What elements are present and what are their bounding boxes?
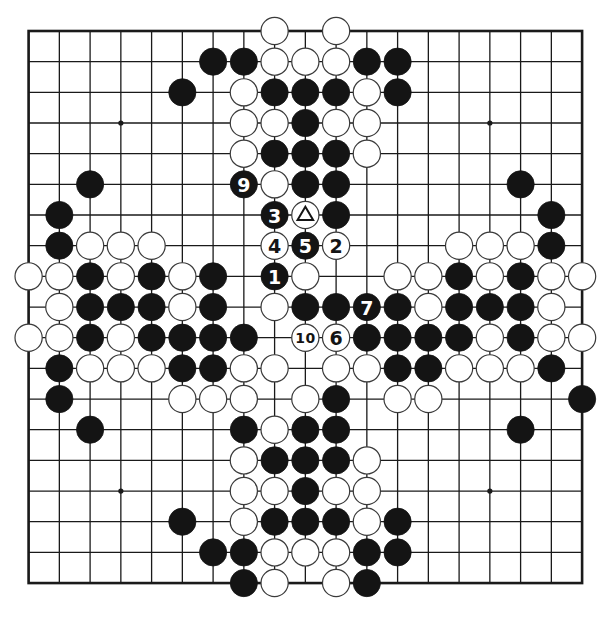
black-stone[interactable] bbox=[77, 416, 104, 443]
black-stone[interactable] bbox=[353, 324, 380, 351]
white-stone[interactable] bbox=[230, 508, 257, 535]
white-stone[interactable] bbox=[230, 79, 257, 106]
white-stone[interactable] bbox=[538, 263, 565, 290]
black-stone[interactable] bbox=[230, 324, 257, 351]
white-stone[interactable] bbox=[323, 539, 350, 566]
white-stone[interactable] bbox=[507, 355, 534, 382]
black-stone[interactable] bbox=[200, 263, 227, 290]
black-stone[interactable] bbox=[538, 201, 565, 228]
black-stone[interactable] bbox=[507, 416, 534, 443]
black-stone[interactable] bbox=[415, 355, 442, 382]
black-stone[interactable] bbox=[77, 263, 104, 290]
white-stone[interactable] bbox=[107, 355, 134, 382]
white-stone[interactable] bbox=[169, 293, 196, 320]
black-stone[interactable] bbox=[292, 79, 319, 106]
black-stone[interactable] bbox=[169, 508, 196, 535]
white-stone[interactable] bbox=[261, 355, 288, 382]
black-stone[interactable] bbox=[323, 171, 350, 198]
black-stone[interactable] bbox=[292, 447, 319, 474]
white-stone[interactable] bbox=[261, 17, 288, 44]
white-stone[interactable] bbox=[353, 477, 380, 504]
black-stone[interactable] bbox=[507, 324, 534, 351]
white-stone[interactable] bbox=[415, 385, 442, 412]
white-stone[interactable] bbox=[353, 508, 380, 535]
white-stone[interactable] bbox=[230, 140, 257, 167]
white-stone[interactable] bbox=[77, 232, 104, 259]
black-stone[interactable] bbox=[507, 293, 534, 320]
white-stone[interactable] bbox=[261, 539, 288, 566]
white-stone[interactable] bbox=[15, 324, 42, 351]
black-stone[interactable] bbox=[384, 508, 411, 535]
white-stone[interactable] bbox=[261, 477, 288, 504]
white-stone[interactable] bbox=[292, 263, 319, 290]
white-stone[interactable] bbox=[292, 385, 319, 412]
white-stone[interactable] bbox=[323, 17, 350, 44]
black-stone[interactable] bbox=[323, 447, 350, 474]
black-stone[interactable] bbox=[77, 293, 104, 320]
black-stone[interactable] bbox=[292, 140, 319, 167]
black-stone[interactable] bbox=[292, 293, 319, 320]
black-stone[interactable] bbox=[200, 293, 227, 320]
white-stone[interactable] bbox=[323, 355, 350, 382]
white-stone[interactable] bbox=[46, 293, 73, 320]
white-stone[interactable] bbox=[292, 48, 319, 75]
white-stone[interactable] bbox=[538, 324, 565, 351]
white-stone[interactable] bbox=[77, 355, 104, 382]
white-stone[interactable] bbox=[261, 569, 288, 596]
white-stone[interactable] bbox=[353, 140, 380, 167]
black-stone[interactable] bbox=[261, 79, 288, 106]
black-stone[interactable] bbox=[107, 293, 134, 320]
white-stone[interactable] bbox=[169, 385, 196, 412]
white-stone[interactable] bbox=[323, 477, 350, 504]
white-stone[interactable] bbox=[230, 477, 257, 504]
black-stone[interactable] bbox=[230, 48, 257, 75]
black-stone[interactable] bbox=[292, 508, 319, 535]
white-stone[interactable] bbox=[261, 48, 288, 75]
black-stone[interactable] bbox=[200, 48, 227, 75]
white-stone[interactable] bbox=[569, 263, 596, 290]
white-stone[interactable] bbox=[230, 109, 257, 136]
white-stone[interactable] bbox=[46, 263, 73, 290]
white-stone[interactable] bbox=[323, 48, 350, 75]
black-stone[interactable] bbox=[292, 416, 319, 443]
white-stone[interactable] bbox=[107, 263, 134, 290]
black-stone[interactable] bbox=[200, 355, 227, 382]
black-stone[interactable] bbox=[353, 569, 380, 596]
white-stone[interactable] bbox=[261, 171, 288, 198]
black-stone[interactable] bbox=[507, 171, 534, 198]
white-stone[interactable] bbox=[292, 539, 319, 566]
black-stone[interactable] bbox=[292, 171, 319, 198]
white-stone[interactable] bbox=[476, 263, 503, 290]
black-stone[interactable] bbox=[384, 539, 411, 566]
white-stone[interactable] bbox=[476, 355, 503, 382]
black-stone[interactable] bbox=[230, 416, 257, 443]
white-stone[interactable] bbox=[507, 232, 534, 259]
white-stone[interactable] bbox=[353, 447, 380, 474]
white-stone[interactable] bbox=[323, 569, 350, 596]
black-stone[interactable] bbox=[323, 508, 350, 535]
black-stone[interactable] bbox=[323, 416, 350, 443]
black-stone[interactable] bbox=[292, 109, 319, 136]
black-stone[interactable] bbox=[261, 447, 288, 474]
black-stone[interactable] bbox=[46, 385, 73, 412]
black-stone[interactable] bbox=[384, 48, 411, 75]
black-stone[interactable] bbox=[323, 79, 350, 106]
white-stone[interactable] bbox=[384, 263, 411, 290]
black-stone[interactable] bbox=[138, 293, 165, 320]
white-stone[interactable] bbox=[569, 324, 596, 351]
white-stone[interactable] bbox=[138, 232, 165, 259]
black-stone[interactable] bbox=[384, 324, 411, 351]
white-stone[interactable] bbox=[261, 109, 288, 136]
black-stone[interactable] bbox=[323, 293, 350, 320]
black-stone[interactable] bbox=[46, 201, 73, 228]
black-stone[interactable] bbox=[507, 263, 534, 290]
white-stone[interactable] bbox=[200, 385, 227, 412]
white-stone[interactable] bbox=[446, 355, 473, 382]
white-stone[interactable] bbox=[138, 355, 165, 382]
black-stone[interactable] bbox=[323, 140, 350, 167]
black-stone[interactable] bbox=[230, 569, 257, 596]
white-stone[interactable] bbox=[230, 385, 257, 412]
black-stone[interactable] bbox=[77, 324, 104, 351]
black-stone[interactable] bbox=[169, 355, 196, 382]
white-stone[interactable] bbox=[15, 263, 42, 290]
